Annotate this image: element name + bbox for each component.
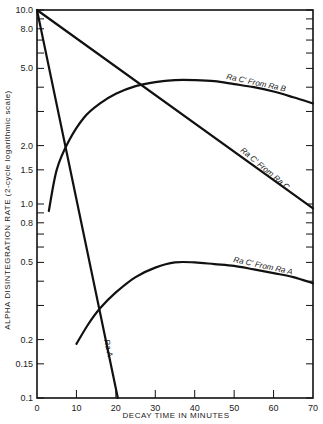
curve-label: Ra C' From Ra B	[226, 72, 288, 94]
x-tick-label: 0	[34, 403, 39, 413]
x-tick-label: 60	[269, 403, 279, 413]
y-tick-label: 0.15	[15, 359, 33, 369]
curve-label: Ra C' From Ra A	[233, 255, 294, 276]
y-tick-label: 0.8	[20, 218, 33, 228]
y-tick-label: 2.0	[20, 141, 33, 151]
y-axis-title: ALPHA DISINTEGRATION RATE (2-cycle logar…	[3, 90, 12, 330]
y-tick-label: 8.0	[20, 24, 33, 34]
y-tick-label: 5.0	[20, 63, 33, 73]
y-tick-label: 10.0	[15, 5, 33, 15]
curves	[37, 10, 313, 398]
axes: 01020304050607010.08.05.02.01.51.00.80.5…	[15, 5, 318, 413]
curve-label: Ra A	[102, 339, 114, 358]
y-tick-label: 0.1	[20, 393, 33, 403]
y-tick-label: 1.0	[20, 199, 33, 209]
labels: Ra ARa C' From Ra CRa C' From Ra BRa C' …	[102, 72, 293, 357]
y-tick-label: 0.5	[20, 257, 33, 267]
x-tick-label: 70	[308, 403, 318, 413]
x-axis-title: DECAY TIME IN MINUTES	[123, 411, 230, 420]
ra-c-prime-from-ra-a-curve	[76, 262, 313, 344]
x-tick-label: 10	[71, 403, 81, 413]
curve-label: Ra C' From Ra C	[239, 146, 292, 192]
x-tick-label: 50	[229, 403, 239, 413]
decay-chart: 01020304050607010.08.05.02.01.51.00.80.5…	[0, 0, 323, 424]
y-tick-label: 0.2	[20, 335, 33, 345]
ra-c-prime-from-ra-b-curve	[49, 80, 313, 211]
y-tick-label: 1.5	[20, 165, 33, 175]
x-tick-label: 20	[111, 403, 121, 413]
